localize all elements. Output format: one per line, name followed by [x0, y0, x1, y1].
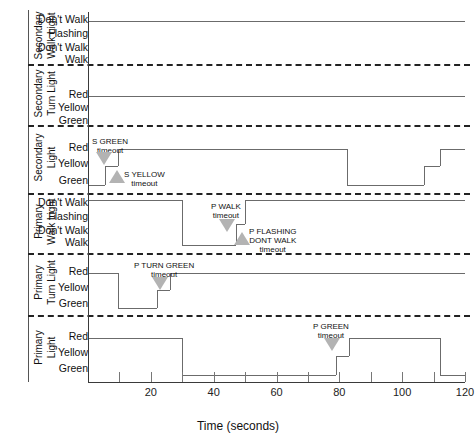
waveform-segment	[336, 356, 349, 357]
x-axis-tick	[214, 372, 215, 382]
waveform-edge	[157, 290, 158, 308]
x-axis-tick	[339, 372, 340, 382]
x-axis-tick-label-40: 40	[194, 386, 234, 398]
x-axis-tick-label-120: 120	[445, 386, 476, 398]
waveform-segment	[88, 200, 182, 201]
annotation-line: timeout	[124, 179, 165, 188]
x-axis-title: Time (seconds)	[0, 419, 476, 433]
x-axis-tick	[402, 372, 403, 382]
annotation-s-yellow-timeout: S YELLOWtimeout	[124, 170, 165, 188]
annotation-line: DONT WALK	[249, 236, 296, 245]
state-label-green: Green	[16, 362, 88, 374]
waveform-segment	[440, 375, 465, 376]
annotation-p-walk-timeout: P WALKtimeout	[211, 202, 241, 220]
waveform-segment	[424, 166, 440, 167]
x-axis-tick	[119, 372, 120, 382]
annotation-line: P FLASHING	[249, 227, 296, 236]
state-label-yellow: Yellow	[16, 346, 88, 358]
annotation-line: P TURN GREEN	[134, 261, 194, 270]
state-label-yellow: Yellow	[16, 281, 88, 293]
waveform-segment	[88, 96, 465, 97]
state-label-red: Red	[16, 330, 88, 342]
waveform-edge	[118, 273, 119, 308]
x-axis-tick	[465, 372, 466, 382]
waveform-edge	[440, 338, 441, 375]
annotation-line: timeout	[249, 245, 296, 254]
x-axis-tick	[182, 372, 183, 382]
annotation-line: P WALK	[211, 202, 241, 211]
waveform-segment	[118, 308, 157, 309]
x-axis-tick-label-100: 100	[382, 386, 422, 398]
waveform-segment	[347, 185, 424, 186]
waveform-edge	[347, 149, 348, 185]
waveform-segment	[157, 290, 170, 291]
waveform-segment	[349, 338, 440, 339]
state-label-red: Red	[16, 141, 88, 153]
x-axis-tick	[151, 372, 152, 382]
x-axis-tick	[371, 372, 372, 382]
x-axis-tick	[245, 372, 246, 382]
waveform-segment	[170, 273, 465, 274]
x-axis-tick-label-20: 20	[131, 386, 171, 398]
waveform-edge	[182, 200, 183, 245]
state-label-red: Red	[16, 265, 88, 277]
waveform-segment	[88, 273, 118, 274]
state-label-red: Red	[16, 88, 88, 100]
x-axis	[88, 382, 465, 383]
state-label-dont_walk: Don't Walk	[16, 13, 88, 25]
lane-separator-5	[28, 315, 470, 317]
marker-triangle-down	[219, 219, 235, 232]
marker-triangle-up	[234, 232, 250, 245]
state-label-green: Green	[16, 297, 88, 309]
state-label-walk: Walk	[16, 236, 88, 248]
state-label-dont_walk: Don't Walk	[16, 196, 88, 208]
annotation-line: S YELLOW	[124, 170, 165, 179]
marker-triangle-down	[324, 338, 340, 351]
state-label-dont_walk2: Don't Walk	[16, 41, 88, 53]
waveform-segment	[236, 224, 245, 225]
waveform-edge	[245, 200, 246, 224]
waveform-edge	[336, 356, 337, 375]
waveform-segment	[182, 375, 336, 376]
waveform-segment	[105, 166, 118, 167]
waveform-edge	[349, 338, 350, 356]
waveform-segment	[440, 149, 465, 150]
x-axis-tick-label-60: 60	[257, 386, 297, 398]
timing-diagram: SecondaryWalk LightSecondaryTurn LightSe…	[0, 0, 476, 441]
waveform-edge	[440, 149, 441, 166]
waveform-edge	[424, 166, 425, 185]
waveform-edge	[182, 338, 183, 375]
lane-separator-2	[28, 125, 470, 127]
annotation-p-flashing-dont-walk-timeout: P FLASHINGDONT WALKtimeout	[249, 227, 296, 254]
waveform-segment	[245, 200, 465, 201]
state-label-flashing: Flashing	[16, 27, 88, 39]
marker-triangle-down	[96, 152, 112, 165]
lane-separator-1	[28, 64, 470, 66]
marker-triangle-down	[152, 277, 168, 290]
waveform-segment	[88, 338, 182, 339]
waveform-segment	[88, 185, 105, 186]
lane-separator-3	[28, 193, 470, 195]
x-axis-tick	[277, 372, 278, 382]
x-axis-tick	[434, 372, 435, 382]
waveform-segment	[118, 149, 347, 150]
state-label-yellow: Yellow	[16, 157, 88, 169]
waveform-segment	[182, 245, 235, 246]
waveform-edge	[105, 166, 106, 185]
state-label-yellow: Yellow	[16, 101, 88, 113]
state-label-dont_walk2: Don't Walk	[16, 224, 88, 236]
state-label-flashing: Flashing	[16, 210, 88, 222]
waveform-segment	[88, 21, 465, 22]
annotation-line: S GREEN	[92, 137, 128, 146]
x-axis-tick	[308, 372, 309, 382]
x-axis-tick-label-80: 80	[319, 386, 359, 398]
marker-triangle-up	[109, 170, 125, 183]
y-axis	[88, 12, 89, 382]
state-label-green: Green	[16, 174, 88, 186]
annotation-line: P GREEN	[313, 322, 349, 331]
